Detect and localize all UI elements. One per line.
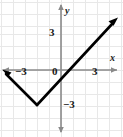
- y-axis-arrow-up: [58, 4, 64, 10]
- x-axis-arrow-right: [111, 67, 117, 73]
- absolute-value-curve: [2, 18, 118, 106]
- coordinate-graph-figure: −3 0 3 3 −3 x y: [0, 0, 123, 137]
- origin-label: 0: [52, 66, 58, 77]
- y-axis-tick-label-negative-3: −3: [63, 99, 75, 110]
- x-axis-tick-label-negative-3: −3: [15, 66, 27, 77]
- y-axis-name-label: y: [65, 6, 69, 16]
- x-axis-tick-label-3: 3: [92, 66, 98, 77]
- x-axis-name-label: x: [110, 53, 115, 63]
- curve-left-branch: [6, 74, 37, 105]
- y-axis-tick-label-3: 3: [49, 27, 55, 38]
- y-axis: [58, 4, 64, 133]
